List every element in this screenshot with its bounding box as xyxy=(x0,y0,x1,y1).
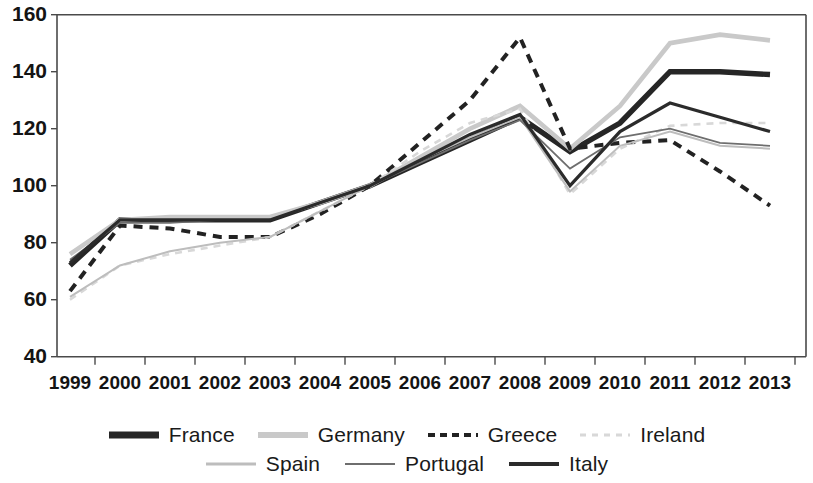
legend-swatch-greece-icon xyxy=(427,428,479,442)
tick-marks xyxy=(51,15,795,365)
series-line-italy xyxy=(70,103,770,263)
y-tick-label: 60 xyxy=(24,287,47,310)
chart-svg: 160140120100806040 199920002001200220032… xyxy=(0,0,813,420)
x-tick-label: 2013 xyxy=(749,372,791,393)
legend-label: Ireland xyxy=(640,423,705,447)
x-tick-label: 2009 xyxy=(549,372,591,393)
x-tick-label: 2011 xyxy=(649,372,691,393)
y-tick-label: 100 xyxy=(12,173,47,196)
legend-row-1: FranceGermanyGreeceIreland xyxy=(0,420,813,449)
series-lines xyxy=(70,35,770,300)
legend-item-france[interactable]: France xyxy=(108,423,235,447)
x-axis-tick-labels: 1999200020012002200320042005200620072008… xyxy=(49,372,791,393)
x-tick-label: 1999 xyxy=(49,372,91,393)
legend-label: Greece xyxy=(488,423,557,447)
legend-label: Germany xyxy=(318,423,405,447)
series-line-france xyxy=(70,72,770,266)
legend-label: Italy xyxy=(569,452,608,476)
y-tick-label: 80 xyxy=(24,230,47,253)
legend-swatch-portugal-icon xyxy=(344,457,396,471)
legend-swatch-ireland-icon xyxy=(579,428,631,442)
legend-label: Portugal xyxy=(405,452,484,476)
legend-item-portugal[interactable]: Portugal xyxy=(344,452,484,476)
x-tick-label: 2003 xyxy=(249,372,291,393)
x-tick-label: 2004 xyxy=(299,372,342,393)
series-line-spain xyxy=(70,117,770,297)
x-tick-label: 2008 xyxy=(499,372,541,393)
y-tick-label: 120 xyxy=(12,116,47,139)
y-tick-label: 140 xyxy=(12,59,47,82)
series-line-ireland xyxy=(70,109,770,300)
legend-item-spain[interactable]: Spain xyxy=(205,452,320,476)
legend-label: Spain xyxy=(266,452,320,476)
y-tick-label: 160 xyxy=(12,2,47,25)
plot-area: 160140120100806040 199920002001200220032… xyxy=(0,0,813,420)
x-tick-label: 2012 xyxy=(699,372,741,393)
legend-label: France xyxy=(169,423,235,447)
legend-swatch-france-icon xyxy=(108,428,160,442)
legend-item-germany[interactable]: Germany xyxy=(257,423,405,447)
axis-lines xyxy=(57,15,806,357)
x-tick-label: 2000 xyxy=(99,372,141,393)
x-tick-label: 2002 xyxy=(199,372,241,393)
legend-item-italy[interactable]: Italy xyxy=(508,452,608,476)
x-tick-label: 2001 xyxy=(149,372,192,393)
legend-row-2: SpainPortugalItaly xyxy=(0,449,813,478)
x-tick-label: 2010 xyxy=(599,372,641,393)
line-chart: 160140120100806040 199920002001200220032… xyxy=(0,0,813,483)
x-tick-label: 2006 xyxy=(399,372,441,393)
y-tick-label: 40 xyxy=(24,344,47,367)
chart-legend: FranceGermanyGreeceIreland SpainPortugal… xyxy=(0,420,813,483)
x-tick-label: 2005 xyxy=(349,372,392,393)
legend-item-ireland[interactable]: Ireland xyxy=(579,423,705,447)
legend-swatch-italy-icon xyxy=(508,457,560,471)
legend-swatch-spain-icon xyxy=(205,457,257,471)
legend-swatch-germany-icon xyxy=(257,428,309,442)
legend-item-greece[interactable]: Greece xyxy=(427,423,557,447)
x-tick-label: 2007 xyxy=(449,372,491,393)
y-axis-tick-labels: 160140120100806040 xyxy=(12,2,47,367)
